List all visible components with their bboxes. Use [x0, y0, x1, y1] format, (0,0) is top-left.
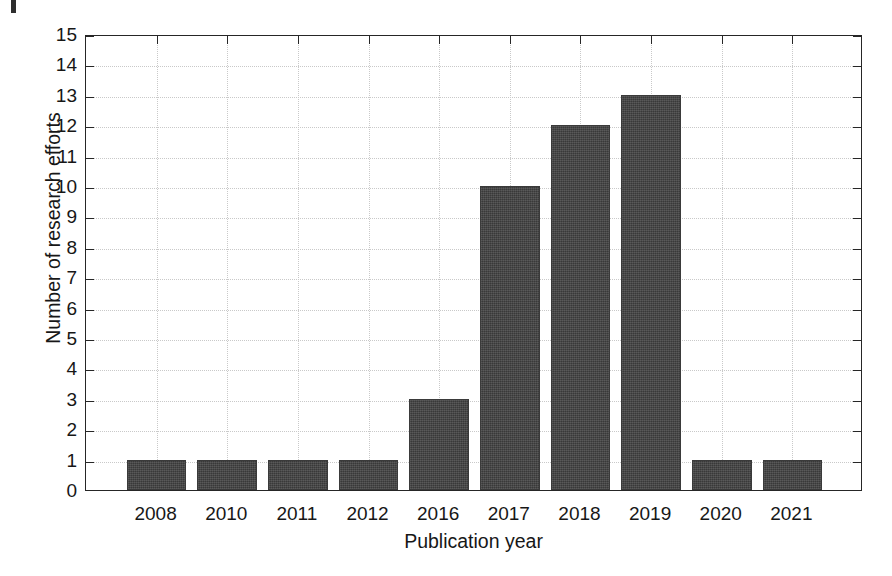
- x-axis-tick-label: 2020: [681, 504, 761, 523]
- bar-chart-figure: Number of research efforts 0123456789101…: [0, 0, 892, 576]
- y-axis-tick-label: 11: [33, 147, 77, 166]
- x-axis-tick-label: 2018: [539, 504, 619, 523]
- bar: [409, 399, 469, 490]
- y-axis-tick-label: 4: [33, 359, 77, 378]
- y-axis-tick-label: 12: [33, 116, 77, 135]
- y-axis-tick-label: 6: [33, 299, 77, 318]
- y-axis-tick-label: 1: [33, 451, 77, 470]
- y-axis-tick-label: 9: [33, 207, 77, 226]
- bar: [127, 460, 187, 490]
- bar: [621, 95, 681, 490]
- y-axis-tick-label: 8: [33, 238, 77, 257]
- y-axis-tick-label: 7: [33, 268, 77, 287]
- y-axis-tick-label: 0: [33, 481, 77, 500]
- y-axis-tick-label: 3: [33, 390, 77, 409]
- y-axis-tick-label: 2: [33, 420, 77, 439]
- bar: [339, 460, 399, 490]
- x-axis-tick-label: 2017: [469, 504, 549, 523]
- x-axis-tick-label: 2011: [257, 504, 337, 523]
- bar: [480, 186, 540, 490]
- x-axis-tick-label: 2019: [610, 504, 690, 523]
- x-axis-tick-label: 2021: [751, 504, 831, 523]
- x-axis-title: Publication year: [85, 530, 862, 552]
- y-axis-tick-label: 10: [33, 177, 77, 196]
- y-axis-tick-label: 5: [33, 329, 77, 348]
- x-axis-tick-label: 2010: [186, 504, 266, 523]
- y-axis-tick-label: 15: [33, 25, 77, 44]
- x-axis-tick-label: 2016: [398, 504, 478, 523]
- x-axis-tick-label: 2008: [116, 504, 196, 523]
- bar: [763, 460, 823, 490]
- bar: [268, 460, 328, 490]
- bar-series: [86, 36, 861, 490]
- bar: [692, 460, 752, 490]
- y-axis-tick-label: 14: [33, 55, 77, 74]
- y-axis-tick-label: 13: [33, 86, 77, 105]
- bar: [197, 460, 257, 490]
- x-axis-tick-label: 2012: [328, 504, 408, 523]
- plot-area: [85, 35, 862, 491]
- bar: [551, 125, 611, 490]
